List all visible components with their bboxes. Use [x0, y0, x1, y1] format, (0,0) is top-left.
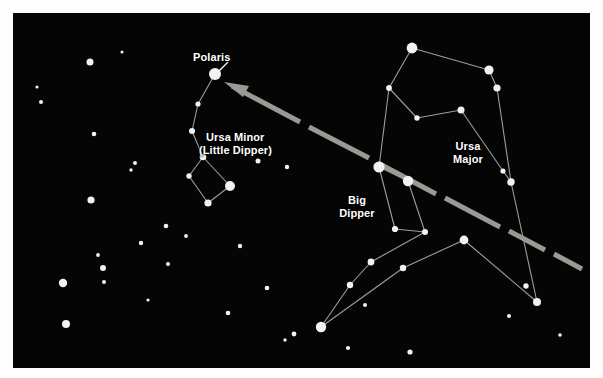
star-dubhe [373, 161, 384, 172]
star-chart-figure: PolarisUrsa Minor(Little Dipper)BigDippe… [0, 0, 603, 378]
star-upsilon-uma [407, 43, 418, 54]
constellation-line [395, 229, 425, 232]
background-star [238, 244, 242, 248]
star-phecda [392, 226, 398, 232]
background-star [507, 314, 511, 318]
background-star [166, 262, 170, 266]
background-star [184, 234, 188, 238]
constellation-line [403, 240, 464, 268]
label-ursa-major-2: Major [453, 153, 483, 166]
constellation-line [497, 88, 511, 182]
background-star [164, 224, 169, 229]
background-star [139, 241, 143, 245]
background-star [121, 51, 124, 54]
star-chi-uma [484, 65, 493, 74]
background-star [407, 349, 412, 354]
label-big-dipper-2: Dipper [339, 207, 374, 220]
background-star [96, 253, 100, 257]
background-star [100, 265, 106, 271]
pointer-dash-segment [445, 198, 500, 227]
star-talitha [460, 236, 469, 245]
star-gamma-umi [204, 199, 211, 206]
label-little-dipper: (Little Dipper) [199, 144, 272, 157]
constellation-line [203, 157, 230, 186]
background-star [87, 196, 94, 203]
constellation-line [189, 157, 203, 176]
constellation-line [417, 110, 461, 118]
pointer-dash-segment [509, 231, 545, 250]
star-eta-umi [186, 173, 191, 178]
background-star [146, 298, 149, 301]
label-big-dipper-1: Big [348, 194, 366, 207]
constellation-line [321, 285, 350, 327]
constellation-line [379, 167, 395, 229]
constellation-line [350, 262, 371, 285]
star-nu-uma [493, 84, 500, 91]
background-star [102, 280, 106, 284]
background-star [87, 59, 94, 66]
background-star [363, 303, 367, 307]
background-star [59, 279, 67, 287]
star-megrez [422, 229, 428, 235]
background-star [35, 85, 38, 88]
star-psi-uma [458, 107, 465, 114]
star-alioth [368, 259, 375, 266]
background-star-group [35, 51, 561, 355]
background-star [133, 161, 137, 165]
star-merak [403, 176, 413, 186]
star-epsilon-umi [189, 128, 195, 134]
pointer-dash-segment [554, 254, 582, 269]
constellation-line [321, 268, 403, 327]
pointer-dash-segment [309, 127, 369, 158]
constellation-line [379, 88, 389, 167]
star-alkaid [316, 322, 326, 332]
background-star [92, 132, 97, 137]
background-star [39, 100, 43, 104]
background-star [285, 165, 289, 169]
background-star [265, 286, 270, 291]
pointer-arrow-group [224, 82, 582, 269]
constellation-line [389, 88, 417, 118]
star-lambda-uma [533, 298, 541, 306]
label-ursa-minor: Ursa Minor [206, 131, 264, 144]
star-yildun [195, 101, 200, 106]
background-star [558, 333, 562, 337]
label-polaris: Polaris [193, 51, 230, 64]
background-star [256, 159, 261, 164]
background-star [292, 332, 297, 337]
star-mizar [347, 282, 353, 288]
label-ursa-major-1: Ursa [456, 140, 481, 153]
star-xi-uma [500, 168, 505, 173]
background-star [129, 168, 132, 171]
constellation-line [412, 48, 489, 70]
star-kochab [225, 181, 235, 191]
constellation-line [189, 176, 208, 203]
star-polaris [209, 68, 221, 80]
star-iota-uma [400, 265, 406, 271]
star-theta-uma [414, 115, 419, 120]
background-star [283, 338, 286, 341]
constellation-canvas [13, 13, 590, 368]
constellation-line [192, 104, 198, 131]
background-star [346, 346, 350, 350]
star-omicron-uma [386, 85, 392, 91]
background-star [62, 320, 70, 328]
constellation-line [389, 48, 412, 88]
constellation-line [371, 232, 425, 262]
star-mu-uma [523, 283, 528, 288]
sky-background: PolarisUrsa Minor(Little Dipper)BigDippe… [13, 13, 590, 368]
star-tania-uma [507, 178, 514, 185]
background-star [226, 311, 231, 316]
